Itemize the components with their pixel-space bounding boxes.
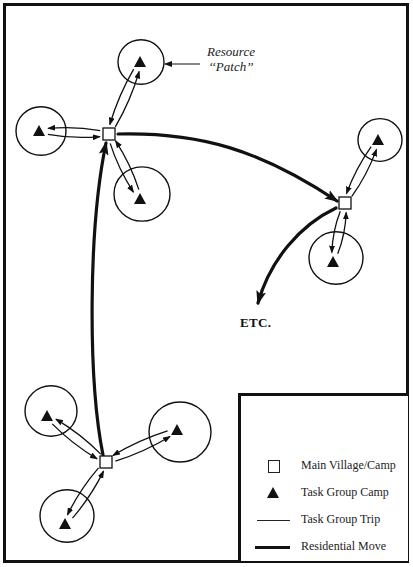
etc-label: ETC.	[240, 315, 271, 331]
thick-line-icon	[255, 546, 290, 549]
filled-triangle-icon	[267, 487, 279, 498]
legend-item-task-group-camp: Task Group Camp	[241, 483, 408, 503]
legend-label: Residential Move	[301, 539, 386, 554]
thin-line-icon	[257, 520, 290, 521]
legend-item-residential-move: Residential Move	[241, 537, 408, 557]
legend-item-main-village: Main Village/Camp	[241, 456, 408, 476]
open-square-icon	[268, 460, 280, 473]
legend-label: Task Group Camp	[301, 485, 389, 500]
legend-label: Main Village/Camp	[301, 458, 396, 473]
resource-patch-label-line1: Resource	[203, 44, 259, 59]
resource-patch-label-line2: ‘‘Patch’’	[203, 59, 259, 74]
legend-item-task-group-trip: Task Group Trip	[241, 510, 408, 530]
legend: Main Village/Camp Task Group Camp Task G…	[238, 393, 408, 561]
resource-patch-label: Resource ‘‘Patch’’	[203, 44, 259, 74]
legend-label: Task Group Trip	[301, 512, 380, 527]
